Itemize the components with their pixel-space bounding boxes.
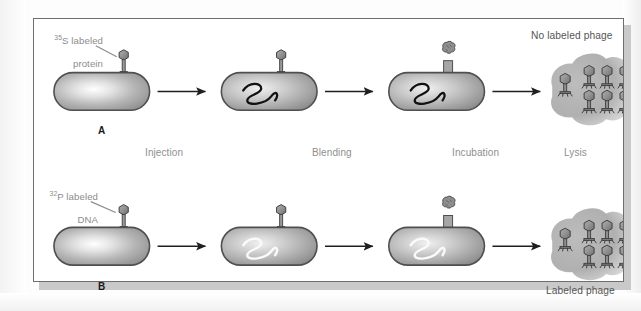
result-caption-labeled-phage: Labeled phage <box>546 285 615 296</box>
stage-label-lysis: Lysis <box>564 147 587 158</box>
stage-label-incubation: Incubation <box>452 147 499 158</box>
panel-a-step-2-injected-cell <box>221 50 317 111</box>
panel-a-step-3-blended-cell <box>389 41 485 110</box>
panel-a-step-4-lysate <box>551 53 623 125</box>
tracer-label-panel-b: 32P labeled DNA <box>31 179 98 237</box>
result-caption-no-labeled-phage: No labeled phage <box>531 30 612 41</box>
panel-letter-b: B <box>98 281 105 292</box>
tracer-label-panel-b-line1: 32P labeled <box>50 191 99 202</box>
figure-frame: 35S labeled protein A No labeled phage I… <box>33 18 624 282</box>
isotope-superscript-35: 35 <box>54 33 62 40</box>
scan-edge-left <box>0 0 26 311</box>
scan-edge-bottom <box>0 293 641 311</box>
stage-label-blending: Blending <box>312 147 352 158</box>
tracer-label-panel-a: 35S labeled protein <box>31 23 103 81</box>
tracer-label-panel-a-line1: 35S labeled <box>54 35 103 46</box>
tracer-label-panel-a-line2: protein <box>73 58 103 69</box>
panel-letter-a: A <box>98 125 105 136</box>
tracer-label-panel-b-line2: DNA <box>77 214 98 225</box>
panel-b-step-4-lysate <box>551 208 623 280</box>
panel-b-step-3-blended-cell <box>389 196 485 265</box>
stage-label-injection: Injection <box>145 147 183 158</box>
panel-b-step-2-injected-cell <box>221 205 317 266</box>
scan-page-background: 35S labeled protein A No labeled phage I… <box>0 0 641 311</box>
